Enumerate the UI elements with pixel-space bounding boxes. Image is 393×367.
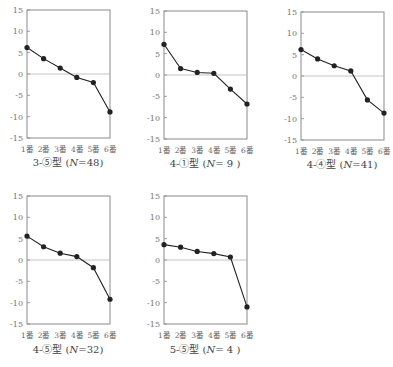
x-tick-label: 1番 — [158, 330, 171, 340]
caption-n: N — [344, 159, 353, 170]
caption-prefix: 4-④型 ( — [307, 159, 344, 170]
x-tick-label: 5番 — [225, 330, 238, 340]
caption-suffix: =48) — [78, 157, 103, 168]
data-point — [244, 304, 249, 309]
y-tick-label: 15 — [150, 192, 160, 201]
data-point — [178, 245, 183, 250]
chart-caption: 4-④型 (N=41) — [292, 156, 392, 171]
caption-n: N — [70, 157, 79, 168]
caption-n: N — [207, 158, 216, 169]
caption-suffix: =32) — [78, 344, 103, 355]
line-chart: 151050-5-10-151番2番3番4番5番6番 — [0, 0, 393, 367]
x-tick-label: 3番 — [191, 330, 204, 340]
chart-caption: 4-⑤型 (N=32) — [18, 341, 118, 356]
caption-n: N — [207, 344, 216, 355]
caption-prefix: 3-⑤型 ( — [33, 157, 70, 168]
caption-suffix: = 9 ) — [215, 158, 240, 169]
x-tick-label: 6番 — [241, 330, 254, 340]
y-tick-label: -15 — [147, 320, 160, 329]
caption-n: N — [70, 344, 79, 355]
data-point — [211, 251, 216, 256]
data-point — [228, 254, 233, 259]
caption-prefix: 4-⑤型 ( — [33, 344, 70, 355]
y-tick-label: 10 — [150, 213, 160, 222]
caption-prefix: 5-⑤型 ( — [170, 344, 207, 355]
y-tick-label: -5 — [152, 277, 160, 286]
data-point — [195, 249, 200, 254]
caption-prefix: 4-①型 ( — [170, 158, 207, 169]
caption-suffix: = 4 ) — [215, 344, 240, 355]
data-point — [161, 242, 166, 247]
caption-suffix: =41) — [352, 159, 377, 170]
x-tick-label: 2番 — [175, 330, 188, 340]
y-tick-label: 5 — [155, 235, 160, 244]
chart-caption: 5-⑤型 (N= 4 ) — [155, 341, 255, 356]
y-tick-label: 0 — [155, 256, 160, 265]
chart-caption: 4-①型 (N= 9 ) — [155, 155, 255, 170]
chart-caption: 3-⑤型 (N=48) — [18, 154, 118, 169]
x-tick-label: 4番 — [208, 330, 221, 340]
y-tick-label: -10 — [147, 299, 160, 308]
series-line — [164, 245, 247, 307]
